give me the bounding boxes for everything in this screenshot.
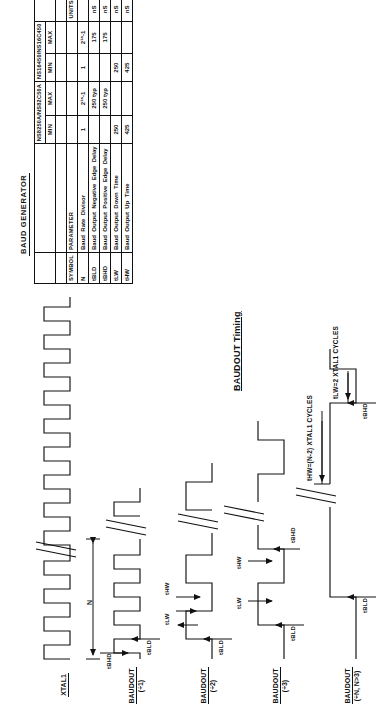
signal-suffix: (÷3) xyxy=(281,680,288,692)
signal-label-xtal1: XTAL1 xyxy=(60,663,69,707)
col-header-b-max: MAX xyxy=(45,21,56,54)
cell-symbol: N xyxy=(77,253,88,284)
group-header-spacer-symbol xyxy=(35,253,56,284)
signal-suffix: (÷2) xyxy=(209,680,216,692)
break-mark-div3-a xyxy=(224,513,264,521)
waveform-baudout-div1-tail xyxy=(114,488,140,516)
annotation-tlw-1: tLW xyxy=(164,613,170,625)
signal-label-baudout-div2: BAUDOUT (÷2) xyxy=(200,661,217,711)
table-subheader-row: SYMBOL PARAMETER UNITS CONDITIONS xyxy=(67,0,78,284)
cell-a-max: 250 typ xyxy=(89,82,100,116)
break-mark-div1-a xyxy=(106,527,146,535)
group-header-device-b: NS16450/NS16C450 xyxy=(35,21,46,81)
signal-name: BAUDOUT xyxy=(272,668,281,705)
signal-name: BAUDOUT xyxy=(200,668,209,705)
waveform-baudout-div2-tail xyxy=(186,463,212,510)
cell-a-min: 250 xyxy=(111,115,122,143)
waveform-baudout-div2 xyxy=(186,533,212,659)
annotation-tlw-2: tLW xyxy=(236,597,242,609)
col-header-parameter-visible: PARAMETER xyxy=(67,144,78,253)
cell-a-max xyxy=(122,82,133,116)
cell-b-min: 250 xyxy=(111,54,122,82)
annotation-tbld-2: tBLD xyxy=(218,640,224,655)
cell-a-min: 425 xyxy=(122,115,133,143)
table-row: N Baud Rate Divisor 1 2¹⁶‑1 1 2¹⁶‑1 xyxy=(77,0,88,284)
cell-symbol: tLW xyxy=(111,253,122,284)
break-mark-div2-a xyxy=(178,521,218,529)
group-header-spacer-units xyxy=(35,0,56,21)
signal-name: BAUDOUT xyxy=(128,668,137,705)
cell-units: nS xyxy=(89,0,100,21)
break-mark-divn-b xyxy=(296,488,336,496)
cell-b-max: 2¹⁶‑1 xyxy=(77,21,88,54)
cell-a-max: 250 typ xyxy=(100,82,111,116)
table-group-header-row: NS8250A/NS82C50A NS16450/NS16C450 xyxy=(35,0,46,284)
annotation-n-divisor: N xyxy=(86,600,93,605)
signal-name: XTAL1 xyxy=(60,673,69,697)
baudout-timing-waveforms xyxy=(0,281,382,721)
annotation-tbhd-1: tBHD xyxy=(106,653,112,669)
waveform-baudout-div3-tail xyxy=(258,421,284,502)
table-title: BAUD GENERATOR xyxy=(19,173,30,256)
cell-units: nS xyxy=(111,0,122,21)
cell-a-min: 1 xyxy=(77,115,88,143)
cell-b-max: 175 xyxy=(100,21,111,54)
signal-name: BAUDOUT xyxy=(344,668,353,705)
cell-a-min xyxy=(89,115,100,143)
subheader-spacer-b-max xyxy=(67,21,78,54)
table-row: tHW Baud Output Up Time 425 425 nS 100pf… xyxy=(122,0,133,284)
cell-a-max: 2¹⁶‑1 xyxy=(77,82,88,116)
annotation-tbhd-2: tBHD xyxy=(290,527,296,543)
annotation-thw-formula: tHW=(N-2) XTAL1 CYCLES xyxy=(306,395,313,481)
signal-label-baudout-divn: BAUDOUT (÷N, N>3) xyxy=(344,655,361,717)
cell-parameter: Baud Rate Divisor xyxy=(77,144,88,253)
waveform-baudout-divn xyxy=(330,507,356,659)
signal-suffix: (÷1) xyxy=(137,680,144,692)
cell-b-max: 175 xyxy=(89,21,100,54)
col-header-symbol-visible: SYMBOL xyxy=(67,253,78,284)
waveform-baudout-div1 xyxy=(114,539,140,659)
cell-units: nS xyxy=(100,0,111,21)
annotation-thw-1: tHW xyxy=(164,582,170,595)
col-header-a-min: MIN xyxy=(45,115,56,143)
annotation-tlw-formula: tLW=2 XTAL1 CYCLES xyxy=(332,326,339,399)
annotation-tbld-3: tBLD xyxy=(290,626,296,641)
subheader-spacer-a-max xyxy=(67,82,78,116)
signal-label-baudout-div3: BAUDOUT (÷3) xyxy=(272,661,289,711)
cell-units: nS xyxy=(122,0,133,21)
cell-symbol: tHW xyxy=(122,253,133,284)
cell-a-min xyxy=(100,115,111,143)
figure-title: BAUDOUT Timing xyxy=(232,311,242,391)
cell-parameter: Baud Output Up Time xyxy=(122,144,133,253)
cell-a-max xyxy=(111,82,122,116)
baud-generator-spec-table: BAUD GENERATOR NS8250A/NS82C50A NS16450/… xyxy=(12,0,133,284)
waveform-xtal1 xyxy=(44,297,70,659)
cell-b-max xyxy=(122,21,133,54)
cell-symbol: tBLD xyxy=(89,253,100,284)
cell-b-min: 1 xyxy=(77,54,88,82)
table-row: tLW Baud Output Down Time 250 250 nS 100… xyxy=(111,0,122,284)
cell-symbol: tBHD xyxy=(100,253,111,284)
group-header-device-a: NS8250A/NS82C50A xyxy=(35,82,46,144)
cell-parameter: Baud Output Down Time xyxy=(111,144,122,253)
cell-b-min xyxy=(89,54,100,82)
break-mark-div3-b xyxy=(224,506,264,514)
annotation-tbhd-3: tBHD xyxy=(362,403,368,419)
cell-b-min xyxy=(100,54,111,82)
group-header-spacer-parameter xyxy=(35,144,56,253)
cell-b-max xyxy=(111,21,122,54)
cell-units xyxy=(77,0,88,21)
annotation-tbld-1: tBLD xyxy=(146,640,152,655)
signal-label-baudout-div1: BAUDOUT (÷1) xyxy=(128,661,145,711)
col-header-b-min: MIN xyxy=(45,54,56,82)
table-row: tBLD Baud Output Negative Edge Delay 250… xyxy=(89,0,100,284)
annotation-tbld-4: tBLD xyxy=(362,598,368,613)
spec-table: NS8250A/NS82C50A NS16450/NS16C450 MIN MA… xyxy=(34,0,133,284)
break-mark-divn-a xyxy=(296,495,336,503)
cell-parameter: Baud Output Negative Edge Delay xyxy=(89,144,100,253)
col-header-a-max: MAX xyxy=(45,82,56,116)
datasheet-page: XTAL1 BAUDOUT (÷1) BAUDOUT (÷2) BAUDOUT … xyxy=(0,0,382,721)
col-header-units-visible: UNITS xyxy=(67,0,78,21)
subheader-spacer-a-min xyxy=(67,115,78,143)
cell-b-min: 425 xyxy=(122,54,133,82)
